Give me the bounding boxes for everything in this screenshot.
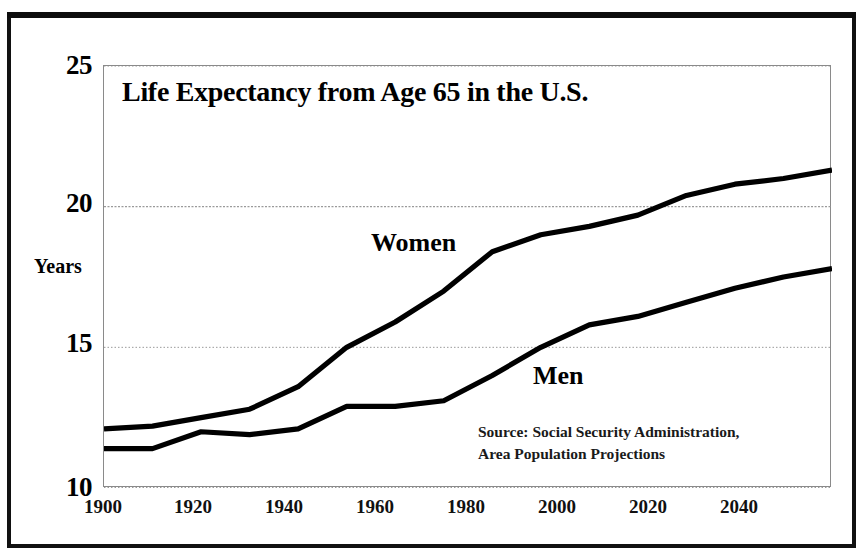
x-axis-tick-label-2040: 2040 <box>704 497 774 516</box>
series-label-women: Women <box>371 228 456 258</box>
series-lines <box>104 170 832 449</box>
x-axis-tick-label-1960: 1960 <box>340 497 410 516</box>
figure-outer-border-top-edge <box>7 12 856 18</box>
y-axis-tick-label-15: 15 <box>40 330 92 357</box>
source-note-line-2: Area Population Projections <box>478 443 740 465</box>
x-axis-tick-label-1920: 1920 <box>158 497 228 516</box>
x-axis-tick-label-1900: 1900 <box>68 497 138 516</box>
x-axis-tick-label-1980: 1980 <box>431 497 501 516</box>
y-axis-tick-label-20: 20 <box>40 190 92 217</box>
x-axis-tick-label-2000: 2000 <box>522 497 592 516</box>
source-note-line-1: Source: Social Security Administration, <box>478 421 740 443</box>
chart-figure: 25 20 15 10 Years 1900 1920 1940 1960 19… <box>0 0 862 559</box>
y-axis-tick-label-25: 25 <box>40 52 92 79</box>
series-label-men: Men <box>533 361 584 391</box>
chart-title: Life Expectancy from Age 65 in the U.S. <box>122 76 588 108</box>
x-axis-tick-label-2020: 2020 <box>613 497 683 516</box>
y-axis-title: Years <box>18 256 98 276</box>
source-note: Source: Social Security Administration, … <box>478 421 740 466</box>
x-axis-tick-label-1940: 1940 <box>249 497 319 516</box>
